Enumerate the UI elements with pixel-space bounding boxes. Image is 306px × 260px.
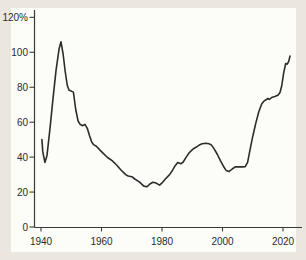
y-tick-label: 60	[17, 117, 29, 128]
x-tick-label: 1940	[30, 236, 53, 247]
y-tick-label: 20	[17, 187, 29, 198]
y-tick-label: 100	[11, 47, 28, 58]
y-tick-label: 40	[17, 152, 29, 163]
x-tick-label: 1960	[90, 236, 113, 247]
x-tick-label: 2000	[211, 236, 234, 247]
y-tick-label: 120%	[2, 12, 28, 23]
x-tick-label: 1980	[151, 236, 174, 247]
chart-figure: 020406080100120%19401960198020002020	[0, 0, 306, 260]
y-tick-label: 80	[17, 82, 29, 93]
y-tick-label: 0	[22, 222, 28, 233]
data-line	[42, 42, 290, 187]
x-tick-label: 2020	[272, 236, 295, 247]
line-chart-svg: 020406080100120%19401960198020002020	[0, 0, 306, 260]
